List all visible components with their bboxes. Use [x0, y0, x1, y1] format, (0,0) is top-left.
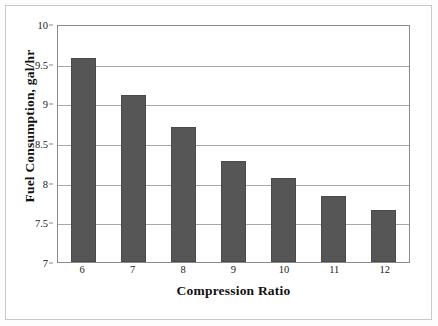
bar-series — [58, 26, 409, 262]
y-axis-tick-label: 9.5 — [35, 59, 48, 70]
x-axis-tick-label: 12 — [360, 264, 410, 275]
chart-figure: Fuel Consumption, gal/hr 77.588.599.510 … — [0, 0, 438, 326]
y-axis-tick-mark — [49, 263, 53, 264]
y-axis-tick-labels: 77.588.599.510 — [0, 25, 53, 263]
y-axis-tick-label: 7 — [43, 258, 48, 269]
bar-slot — [58, 26, 108, 262]
y-axis-tick-label: 9 — [43, 99, 48, 110]
x-axis-tick-label: 10 — [259, 264, 309, 275]
x-axis-tick-label: 8 — [158, 264, 208, 275]
bar-slot — [158, 26, 208, 262]
y-axis-tick-label: 8.5 — [35, 139, 48, 150]
bar[interactable] — [221, 161, 246, 262]
bar[interactable] — [371, 210, 396, 262]
bar[interactable] — [321, 196, 346, 262]
y-axis-tick-mark — [49, 64, 53, 65]
x-axis-tick-label: 7 — [107, 264, 157, 275]
y-axis-tick-mark — [49, 183, 53, 184]
x-axis-tick-labels: 6789101112 — [57, 264, 410, 275]
x-axis-title: Compression Ratio — [57, 283, 410, 299]
plot-area — [57, 25, 410, 263]
x-axis-tick-label: 9 — [208, 264, 258, 275]
y-axis-tick-label: 7.5 — [35, 218, 48, 229]
bar-slot — [359, 26, 409, 262]
bar[interactable] — [121, 95, 146, 262]
y-axis-tick-mark — [49, 144, 53, 145]
bar-slot — [309, 26, 359, 262]
x-axis-tick-label: 11 — [309, 264, 359, 275]
y-axis-tick-mark — [49, 223, 53, 224]
y-axis-tick-label: 8 — [43, 178, 48, 189]
bar[interactable] — [271, 178, 296, 262]
bar[interactable] — [71, 58, 96, 262]
y-axis-tick-mark — [49, 104, 53, 105]
bar-slot — [208, 26, 258, 262]
y-axis-tick-mark — [49, 25, 53, 26]
bar-slot — [108, 26, 158, 262]
x-axis-tick-label: 6 — [57, 264, 107, 275]
bar-slot — [259, 26, 309, 262]
y-axis-tick-label: 10 — [38, 20, 49, 31]
bar[interactable] — [171, 127, 196, 262]
